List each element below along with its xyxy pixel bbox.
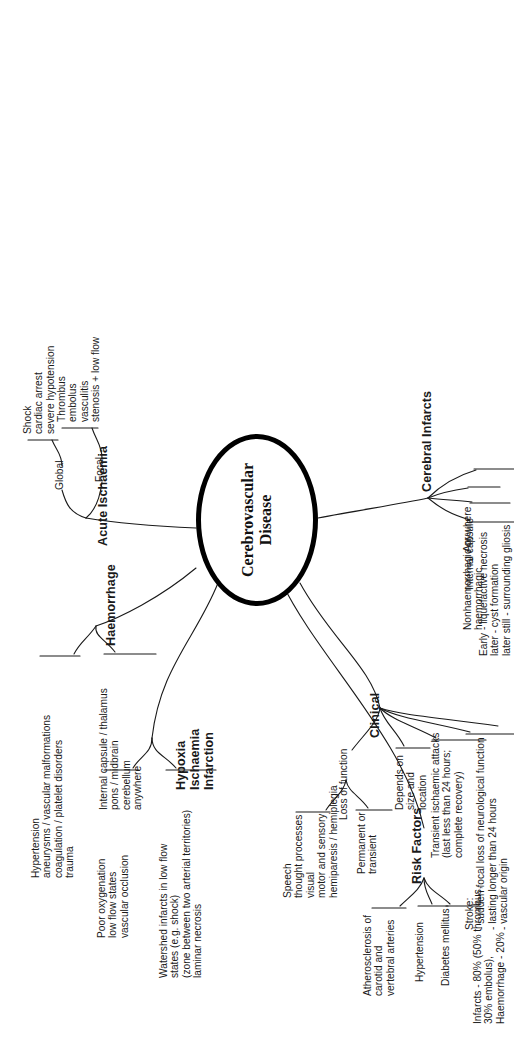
leaf-loss-of-function-modalities: Speech thought processes visual motor an… bbox=[282, 785, 339, 898]
leaf-hii-watershed: Watershed infarcts in low flow states (e… bbox=[158, 810, 204, 978]
leaf-cerebral-infarcts-evolution: Early - liquefactive necrosis later - cy… bbox=[478, 525, 512, 656]
center-node: Cerebrovascular Disease bbox=[196, 434, 318, 606]
leaf-haemorrhage-sites: Internal capsule / thalamus pons / midbr… bbox=[98, 688, 144, 810]
leaf-global-causes: Shock cardiac arrest severe hypotension bbox=[22, 346, 56, 434]
leaf-focal-causes: Thrombus embolus vasculitis stenosis + l… bbox=[56, 337, 102, 422]
leaf-hii-causes: Poor oxygenation low flow states vascula… bbox=[96, 855, 130, 938]
branch-label-clinical[interactable]: Clinical bbox=[368, 693, 382, 738]
branch-label-hypoxia-ischaemia-infarction[interactable]: Hypoxia Ischaemia Infarction bbox=[174, 729, 216, 790]
leaf-loss-of-function-duration: Permanent or transient bbox=[356, 812, 379, 874]
leaf-transient-ischaemic-attacks: Transient ischaemic attacks (last less t… bbox=[430, 733, 464, 858]
mindmap-canvas: Cerebrovascular Disease Hypoxia Ischaemi… bbox=[0, 0, 514, 1038]
leaf-risk-factor-atherosclerosis: Atherosclerosis of carotid and vertebral… bbox=[362, 915, 396, 996]
leaf-risk-factor-hypertension: Hypertension bbox=[414, 922, 425, 982]
branch-label-cerebral-infarcts[interactable]: Cerebral Infarcts bbox=[420, 391, 434, 492]
leaf-haemorrhage-causes: Hypertension aneurysms / vascular malfor… bbox=[30, 715, 76, 878]
leaf-risk-factor-diabetes: Diabetes mellitus bbox=[440, 908, 451, 986]
branch-label-risk-factors[interactable]: Risk Factors bbox=[410, 808, 424, 884]
center-node-label: Cerebrovascular Disease bbox=[239, 463, 276, 577]
leaf-cerebral-infarcts-anywhere: Anywhere bbox=[462, 507, 473, 552]
sub-label-focal[interactable]: Focal bbox=[94, 457, 105, 482]
branch-label-haemorrhage[interactable]: Haemorrhage bbox=[104, 564, 118, 646]
leaf-epidemiology: Infarcts - 80% (50% thrombus, 30% embolu… bbox=[472, 886, 506, 1024]
sub-label-loss-of-function[interactable]: Loss of function bbox=[338, 749, 349, 820]
leaf-depends-on-size-location: Depends on size and location bbox=[394, 755, 428, 810]
sub-label-global[interactable]: Global bbox=[54, 461, 65, 490]
